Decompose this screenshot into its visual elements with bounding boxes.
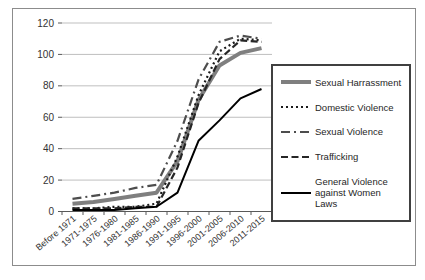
svg-text:60: 60 [43,112,55,123]
sexual-violence-line-swatch-icon [281,128,311,136]
sexual-harrassment-line-swatch-icon [281,78,311,86]
svg-text:100: 100 [37,49,54,60]
svg-text:0: 0 [48,206,54,217]
svg-text:80: 80 [43,80,55,91]
general-violence-line-swatch-icon [281,189,311,197]
legend-item-general-violence: General Violence against Women Laws [281,176,405,209]
legend-label-sexual-harrassment: Sexual Harrassment [315,77,401,88]
legend: Sexual Harrassment Domestic Violence Sex… [271,64,411,222]
legend-item-trafficking: Trafficking [281,151,405,162]
legend-label-domestic-violence: Domestic Violence [315,102,394,113]
legend-item-sexual-harrassment: Sexual Harrassment [281,77,405,88]
legend-label-trafficking: Trafficking [315,151,358,162]
legend-label-sexual-violence: Sexual Violence [315,126,383,137]
legend-item-domestic-violence: Domestic Violence [281,102,405,113]
legend-label-general-violence: General Violence against Women Laws [315,176,405,209]
svg-text:120: 120 [37,18,54,29]
svg-text:40: 40 [43,143,55,154]
legend-item-sexual-violence: Sexual Violence [281,126,405,137]
domestic-violence-line-swatch-icon [281,103,311,111]
trafficking-line-swatch-icon [281,153,311,161]
svg-text:20: 20 [43,175,55,186]
